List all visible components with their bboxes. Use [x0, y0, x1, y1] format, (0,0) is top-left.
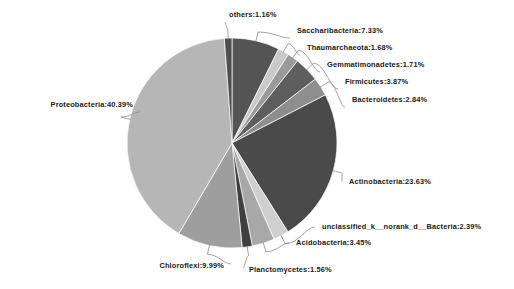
pie-slice-label: Planctomycetes:1.56% [249, 265, 332, 274]
pie-slices-group [127, 38, 337, 248]
pie-slice-label: Acidobacteria:3.45% [296, 238, 371, 247]
leader-line [256, 32, 290, 42]
leader-line [263, 242, 289, 252]
pie-slice-label: Saccharibacteria:7.33% [297, 26, 383, 35]
leader-line [225, 22, 228, 39]
pie-slice-label: Gemmatimonadetes:1.71% [327, 60, 425, 69]
pie-chart-figure: others:1.16%Saccharibacteria:7.33%Thauma… [0, 0, 514, 289]
pie-slice-label: Firmicutes:3.87% [345, 77, 408, 86]
pie-slice-label: unclassified_k__norank_d__Bacteria:2.39% [322, 222, 482, 231]
pie-chart-canvas: others:1.16%Saccharibacteria:7.33%Thauma… [0, 0, 514, 289]
pie-slice-label: Chloroflexi:9.99% [159, 261, 224, 270]
pie-slice-label: Thaumarchaeota:1.68% [307, 43, 393, 52]
leader-line [332, 170, 342, 182]
pie-slice-label: Bacteroidetes:2.84% [352, 95, 427, 104]
leader-line [243, 246, 249, 268]
pie-slice-label: others:1.16% [229, 10, 277, 19]
pie-slice-label: Proteobacteria:40.39% [51, 100, 134, 109]
pie-slice-label: Actinobacteria:23.63% [349, 177, 431, 186]
